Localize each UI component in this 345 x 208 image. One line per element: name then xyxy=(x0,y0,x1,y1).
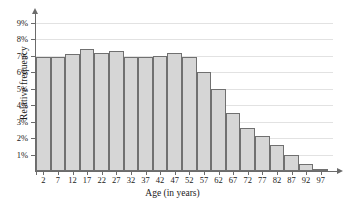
y-axis-tick-label: 9% xyxy=(4,19,28,28)
y-axis-tick-label: 8% xyxy=(4,35,28,44)
gridline xyxy=(36,39,333,40)
histogram-bar xyxy=(138,57,153,171)
histogram-bar xyxy=(284,155,299,171)
histogram-bar xyxy=(51,57,66,171)
histogram-bar xyxy=(211,89,226,171)
x-axis-tick xyxy=(36,171,37,175)
y-axis-tick xyxy=(31,39,36,40)
histogram-bar xyxy=(167,53,182,171)
histogram-bar xyxy=(182,57,197,171)
histogram-bar xyxy=(240,128,255,171)
y-axis-tick xyxy=(31,23,36,24)
histogram-bar xyxy=(36,57,51,171)
y-axis-tick-label: 6% xyxy=(4,68,28,77)
histogram-bar xyxy=(299,164,314,171)
x-axis-arrow-icon xyxy=(337,168,343,174)
histogram-bar xyxy=(65,54,80,171)
histogram-bar xyxy=(226,113,241,171)
histogram-bar xyxy=(255,136,270,171)
histogram-bar xyxy=(197,72,212,171)
histogram-bar xyxy=(94,53,109,171)
y-axis-tick-label: 4% xyxy=(4,101,28,110)
x-axis-title: Age (in years) xyxy=(0,188,345,198)
y-axis-tick-label: 3% xyxy=(4,118,28,127)
histogram-bar xyxy=(124,57,139,171)
x-axis-tick-label: 97 xyxy=(310,176,332,185)
y-axis-tick-label: 7% xyxy=(4,52,28,61)
histogram-chart: Relative frequency Age (in years) 9%8%7%… xyxy=(0,0,345,208)
histogram-bar xyxy=(270,145,285,171)
histogram-bar xyxy=(153,56,168,171)
histogram-bar xyxy=(80,49,95,171)
histogram-bar xyxy=(109,51,124,171)
x-axis-line xyxy=(35,171,338,172)
y-axis-tick-label: 5% xyxy=(4,85,28,94)
y-axis-tick-label: 2% xyxy=(4,134,28,143)
y-axis-tick-label: 1% xyxy=(4,151,28,160)
y-axis-arrow-icon xyxy=(32,8,38,14)
gridline xyxy=(36,23,333,24)
